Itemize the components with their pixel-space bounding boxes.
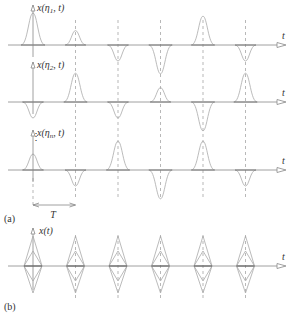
arrow-head-icon <box>277 168 286 173</box>
arrow-head-icon <box>277 43 286 48</box>
arrow-head-icon <box>31 228 35 234</box>
arrow-head-icon <box>31 62 35 68</box>
figure-canvas: tx(η1, t)tx(η2, t)tx(ηn, t)⋮T(a)tx(t)(b) <box>0 0 298 316</box>
time-axis-label: t <box>282 87 285 98</box>
panel-b-label: (b) <box>4 301 16 313</box>
time-axis-label: t <box>282 155 285 166</box>
arrow-head-icon <box>31 5 35 11</box>
time-axis-label: t <box>282 30 285 41</box>
random-process-figure: tx(η1, t)tx(η2, t)tx(ηn, t)⋮T(a)tx(t)(b) <box>0 0 298 316</box>
arrow-head-icon <box>277 100 286 105</box>
row-ylabel: x(η2, t) <box>36 59 65 72</box>
ellipsis: ⋮ <box>31 131 41 142</box>
panel-a-label: (a) <box>4 213 15 225</box>
ensemble-ylabel: x(t) <box>38 225 54 237</box>
row-ylabel: x(η1, t) <box>36 2 65 15</box>
period-label: T <box>50 209 57 220</box>
arrow-head-icon <box>277 264 286 269</box>
time-axis-label: t <box>282 251 285 262</box>
